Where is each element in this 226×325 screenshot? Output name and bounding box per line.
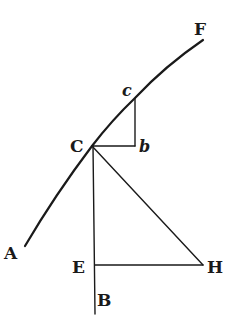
- curve-AF: [25, 40, 203, 246]
- label-b: b: [139, 137, 150, 156]
- label-A: A: [3, 243, 18, 263]
- label-C: C: [70, 136, 84, 156]
- label-c: c: [122, 81, 132, 100]
- label-H: H: [207, 257, 223, 277]
- label-B: B: [97, 290, 111, 310]
- segment-CH: [92, 146, 203, 265]
- label-E: E: [72, 257, 85, 277]
- label-F: F: [194, 19, 206, 39]
- segment-CB: [93, 146, 95, 314]
- geometry-diagram: F c C b A E H B: [0, 0, 226, 325]
